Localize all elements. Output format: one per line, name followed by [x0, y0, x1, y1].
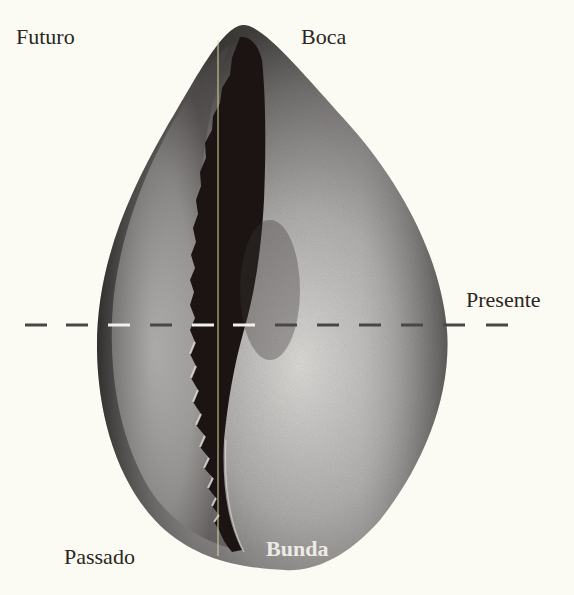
label-passado: Passado: [64, 546, 135, 568]
label-boca: Boca: [301, 26, 346, 48]
label-presente: Presente: [466, 289, 541, 311]
label-bunda: Bunda: [266, 538, 328, 560]
label-futuro: Futuro: [16, 26, 75, 48]
cowrie-diagram: Futuro Boca Presente Passado Bunda: [0, 0, 574, 595]
